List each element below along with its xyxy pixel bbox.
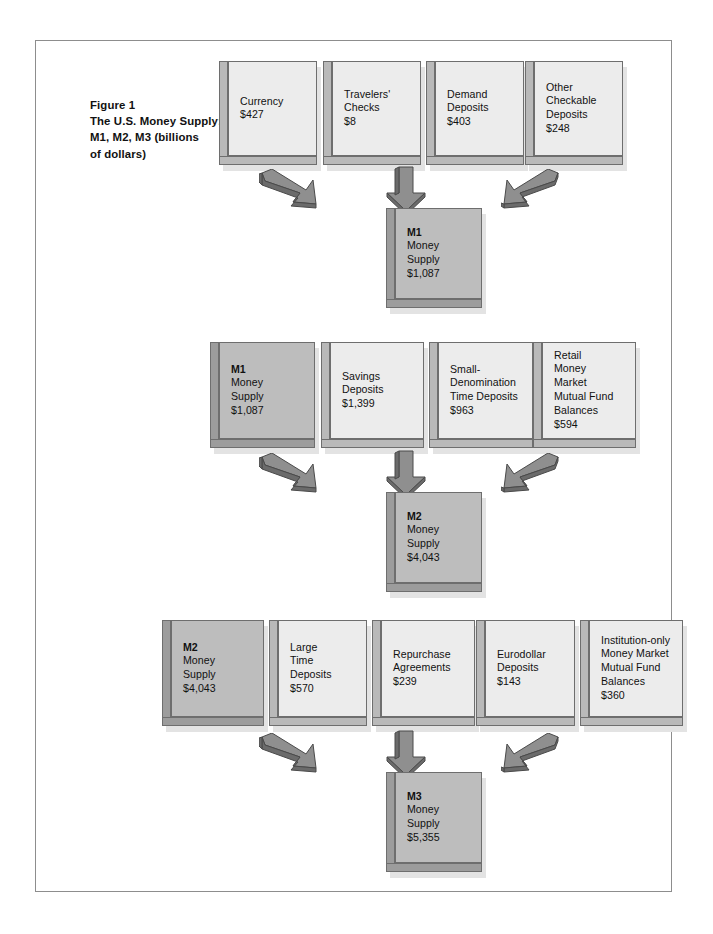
box-label-line-2: $403: [447, 115, 518, 129]
box-front-face: RepurchaseAgreements$239: [381, 620, 475, 717]
box-bottom-face: [162, 717, 264, 726]
box-front-face: DemandDeposits$403: [435, 61, 524, 156]
box-label-line-0: M1: [407, 226, 476, 240]
box-label-line-0: M2: [183, 641, 258, 655]
box-label-line-1: Money: [231, 377, 309, 391]
box-front-face: SavingsDeposits$1,399: [330, 342, 424, 439]
box-front-face: Currency$427: [228, 61, 317, 156]
box-label: OtherCheckableDeposits$248: [546, 81, 617, 137]
box-label-line-1: Checkable: [546, 95, 617, 109]
box-bottom-face: [386, 863, 482, 872]
box-side-face: [476, 620, 485, 726]
box-bottom-face: [426, 156, 524, 165]
box-label: Travelers'Checks$8: [344, 88, 415, 130]
box-label-line-1: Deposits: [342, 384, 418, 398]
box-label-line-0: M2: [407, 510, 476, 524]
component-box-m2-0: M1MoneySupply$1,087: [210, 342, 315, 448]
box-front-face: Small-DenominationTime Deposits$963: [438, 342, 533, 439]
box-front-face: EurodollarDeposits$143: [485, 620, 575, 717]
box-front-face: OtherCheckableDeposits$248: [534, 61, 623, 156]
box-label: Institution-onlyMoney MarketMutual FundB…: [601, 634, 677, 704]
box-label: M3MoneySupply$5,355: [407, 790, 476, 846]
box-label: DemandDeposits$403: [447, 88, 518, 130]
result-box-m2: M2MoneySupply$4,043: [386, 492, 482, 592]
box-front-face: M1MoneySupply$1,087: [395, 208, 482, 299]
box-label-line-3: Mutual Fund: [554, 391, 630, 405]
box-side-face: [323, 61, 332, 165]
box-label-line-0: M3: [407, 790, 476, 804]
box-side-face: [386, 492, 395, 592]
component-box-m2-3: RetailMoneyMarketMutual FundBalances$594: [533, 342, 636, 448]
flow-arrow-m2-down-left: [501, 453, 561, 499]
box-label-line-3: $1,087: [231, 404, 309, 418]
box-bottom-face: [321, 439, 424, 448]
box-label-line-0: Currency: [240, 95, 311, 109]
box-label-line-0: Institution-only: [601, 634, 677, 648]
box-label-line-2: $1,399: [342, 397, 418, 411]
box-label-line-2: Deposits: [290, 669, 361, 683]
box-label-line-0: Other: [546, 81, 617, 95]
box-label: RepurchaseAgreements$239: [393, 648, 469, 690]
flow-arrow-m1-down-right: [259, 169, 319, 215]
box-label: M2MoneySupply$4,043: [183, 641, 258, 697]
box-label-line-2: Supply: [407, 818, 476, 832]
flow-arrow-m3-down-left: [501, 733, 561, 779]
box-label-line-0: Retail: [554, 349, 630, 363]
box-label-line-2: Mutual Fund: [601, 662, 677, 676]
box-label-line-1: Money: [554, 363, 630, 377]
component-box-m1-0: Currency$427: [219, 61, 317, 165]
box-label-line-1: Deposits: [497, 662, 569, 676]
box-bottom-face: [386, 583, 482, 592]
figure-frame: Figure 1The U.S. Money Supply:M1, M2, M3…: [35, 40, 672, 892]
box-side-face: [372, 620, 381, 726]
box-bottom-face: [219, 156, 317, 165]
box-label-line-3: $963: [450, 404, 527, 418]
component-box-m3-4: Institution-onlyMoney MarketMutual FundB…: [580, 620, 683, 726]
result-box-m1: M1MoneySupply$1,087: [386, 208, 482, 308]
box-side-face: [429, 342, 438, 448]
box-front-face: M2MoneySupply$4,043: [395, 492, 482, 583]
box-label-line-2: Market: [554, 377, 630, 391]
box-label: M1MoneySupply$1,087: [231, 363, 309, 419]
box-side-face: [386, 772, 395, 872]
box-label-line-0: Travelers': [344, 88, 415, 102]
box-label-line-1: Money: [407, 524, 476, 538]
box-label-line-1: Money: [407, 804, 476, 818]
box-bottom-face: [429, 439, 533, 448]
box-label-line-3: $4,043: [407, 551, 476, 565]
box-label-line-2: Supply: [183, 669, 258, 683]
box-label-line-2: Supply: [231, 391, 309, 405]
component-box-m3-2: RepurchaseAgreements$239: [372, 620, 475, 726]
box-label-line-1: Time: [290, 655, 361, 669]
box-front-face: M3MoneySupply$5,355: [395, 772, 482, 863]
box-label-line-2: $239: [393, 675, 469, 689]
box-label-line-3: $4,043: [183, 682, 258, 696]
box-label-line-2: $143: [497, 675, 569, 689]
box-label-line-2: Deposits: [546, 109, 617, 123]
box-side-face: [162, 620, 171, 726]
flow-arrow-m2-down-right: [259, 453, 319, 499]
box-front-face: M1MoneySupply$1,087: [219, 342, 315, 439]
box-label-line-1: Agreements: [393, 662, 469, 676]
box-label-line-0: Repurchase: [393, 648, 469, 662]
box-label-line-0: Small-: [450, 363, 527, 377]
box-side-face: [210, 342, 219, 448]
box-label-line-0: Eurodollar: [497, 648, 569, 662]
box-label-line-1: Money Market: [601, 648, 677, 662]
box-label-line-3: $570: [290, 682, 361, 696]
box-side-face: [525, 61, 534, 165]
box-side-face: [426, 61, 435, 165]
box-label-line-0: M1: [231, 363, 309, 377]
box-label-line-3: Balances: [601, 675, 677, 689]
box-front-face: LargeTimeDeposits$570: [278, 620, 367, 717]
box-bottom-face: [210, 439, 315, 448]
box-side-face: [269, 620, 278, 726]
box-bottom-face: [476, 717, 575, 726]
box-label-line-1: Checks: [344, 102, 415, 116]
box-front-face: Institution-onlyMoney MarketMutual FundB…: [589, 620, 683, 717]
box-side-face: [386, 208, 395, 308]
box-label-line-4: Balances: [554, 404, 630, 418]
box-side-face: [533, 342, 542, 448]
box-bottom-face: [580, 717, 683, 726]
box-label-line-3: $248: [546, 122, 617, 136]
